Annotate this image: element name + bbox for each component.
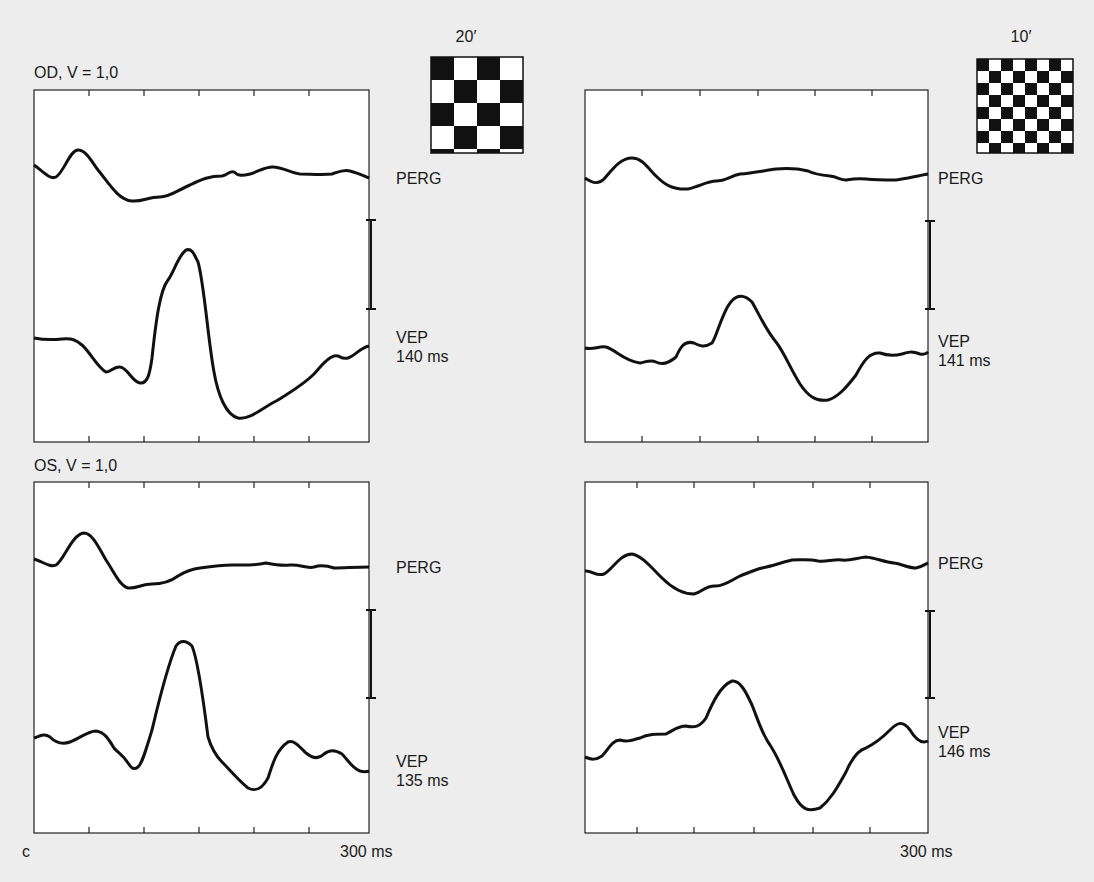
column-label-10: 10′ [1011, 28, 1032, 45]
panel-os-20 [34, 482, 376, 833]
checkerboard-20-icon [431, 57, 523, 153]
panel-od-10 [585, 90, 935, 442]
vep-label: VEP [938, 333, 970, 350]
vep-latency: 135 ms [396, 772, 448, 789]
row-label-od: OD, V = 1,0 [34, 64, 118, 81]
vep-label: VEP [396, 753, 428, 770]
x-axis-end-label-left: 300 ms [340, 843, 392, 860]
perg-label: PERG [938, 170, 983, 187]
vep-label: VEP [396, 329, 428, 346]
vep-latency: 146 ms [938, 743, 990, 760]
perg-label: PERG [938, 555, 983, 572]
figure: OD, V = 1,0 OS, V = 1,0 20′ 10′ PERG VEP… [0, 0, 1094, 882]
panel-letter: c [22, 843, 30, 860]
column-label-20: 20′ [456, 28, 477, 45]
row-label-os: OS, V = 1,0 [34, 457, 117, 474]
checkerboard-10-icon [977, 59, 1073, 153]
perg-label: PERG [396, 559, 441, 576]
perg-label: PERG [396, 170, 441, 187]
vep-latency: 141 ms [938, 352, 990, 369]
vep-label: VEP [938, 724, 970, 741]
panel-od-20 [34, 90, 376, 442]
vep-latency: 140 ms [396, 348, 448, 365]
x-axis-end-label-right: 300 ms [900, 843, 952, 860]
panel-os-10 [585, 482, 935, 833]
